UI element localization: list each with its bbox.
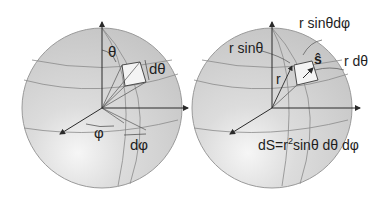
label-d-phi: dφ [130, 136, 148, 153]
label-r: r [276, 71, 281, 87]
right-sphere-panel: r sinθdφ r sinθ ŝ r dθ r dS=r2sinθ dθ dφ [192, 15, 368, 188]
label-r-sin-theta-d-phi: r sinθdφ [299, 15, 350, 31]
label-d-theta: dθ [149, 60, 166, 77]
area-element-formula: dS=r2sinθ dθ dφ [258, 136, 359, 153]
left-sphere-panel: θ dθ φ dφ [22, 22, 188, 188]
label-r-d-theta: r dθ [344, 53, 368, 69]
label-theta: θ [108, 43, 116, 60]
label-r-sin-theta: r sinθ [229, 40, 263, 56]
spherical-surface-element-diagram: θ dθ φ dφ r sinθdφ r sinθ ŝ r dθ r dS=r2… [0, 0, 392, 202]
label-s-hat: ŝ [314, 51, 322, 67]
label-phi: φ [94, 124, 104, 141]
